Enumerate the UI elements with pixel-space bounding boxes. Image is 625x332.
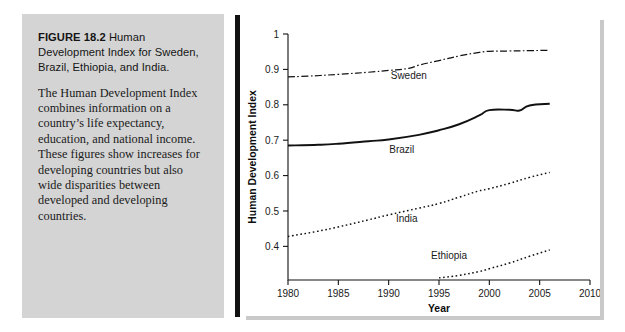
series-line-india: [288, 172, 550, 236]
series-label-brazil: Brazil: [389, 144, 414, 155]
x-tick-label: 2005: [529, 288, 552, 299]
y-tick-label: 1: [273, 29, 279, 40]
x-tick-label: 1990: [378, 288, 401, 299]
y-tick-label: 0.6: [265, 170, 279, 181]
line-chart: 0.40.50.60.70.80.91198019851990199520002…: [242, 16, 600, 316]
series-label-india: India: [396, 213, 418, 224]
chart-panel: 0.40.50.60.70.80.91198019851990199520002…: [242, 16, 600, 316]
y-tick-label: 0.5: [265, 206, 279, 217]
x-tick-label: 1980: [277, 288, 300, 299]
figure-caption-body: The Human Development Index combines inf…: [38, 86, 208, 225]
figure-caption-panel: FIGURE 18.2 Human Development Index for …: [22, 14, 224, 318]
figure-root: FIGURE 18.2 Human Development Index for …: [0, 0, 625, 332]
y-tick-label: 0.9: [265, 64, 279, 75]
axis-spines: [288, 34, 590, 280]
series-label-sweden: Sweden: [391, 70, 427, 81]
y-tick-label: 0.4: [265, 241, 279, 252]
series-line-brazil: [288, 104, 550, 146]
figure-number-label: FIGURE 18.2: [38, 31, 106, 43]
figure-caption-title: FIGURE 18.2 Human Development Index for …: [38, 30, 208, 76]
x-tick-label: 2000: [478, 288, 501, 299]
y-axis-title: Human Development Index: [247, 90, 258, 224]
y-tick-label: 0.7: [265, 135, 279, 146]
x-tick-label: 1995: [428, 288, 451, 299]
x-tick-label: 2010: [579, 288, 600, 299]
vertical-divider-bar: [235, 15, 240, 317]
y-tick-label: 0.8: [265, 99, 279, 110]
x-tick-label: 1985: [327, 288, 350, 299]
x-axis-title: Year: [428, 303, 450, 314]
series-label-ethiopia: Ethiopia: [431, 250, 468, 261]
